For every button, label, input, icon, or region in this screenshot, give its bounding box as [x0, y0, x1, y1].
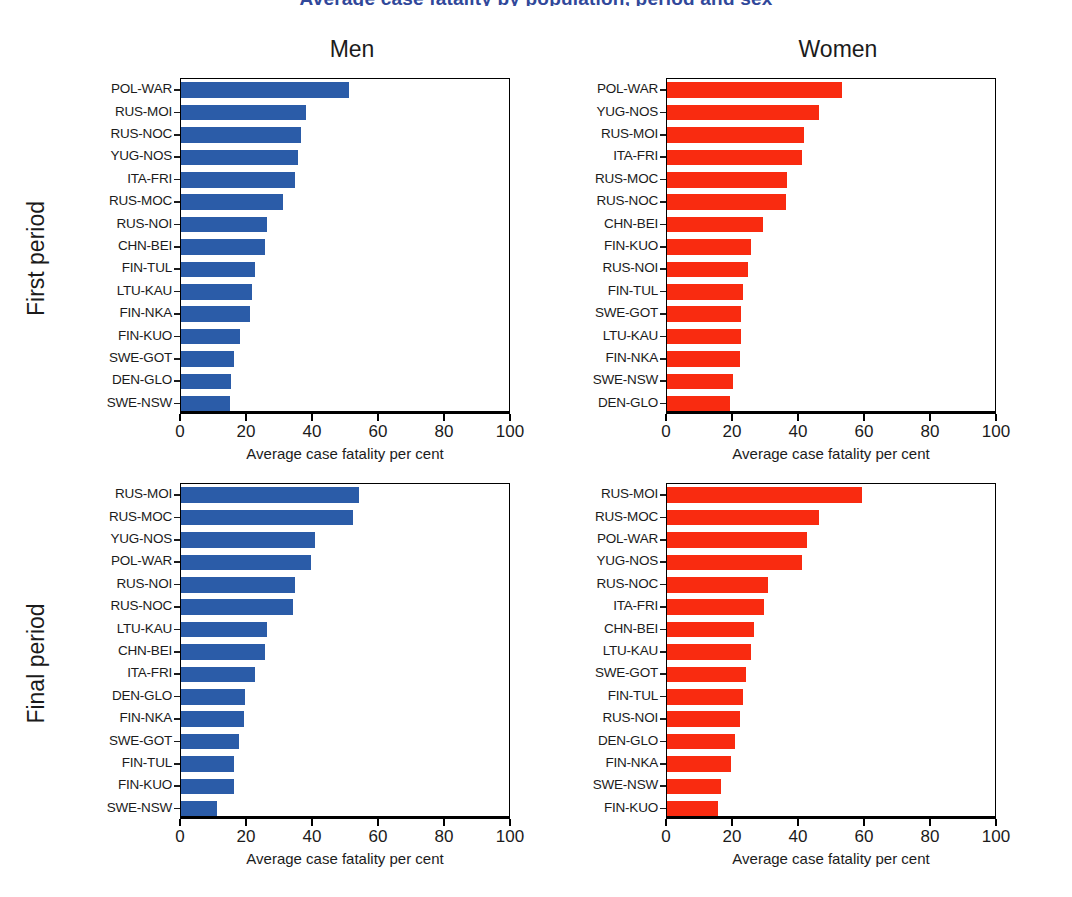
x-axis-title: Average case fatality per cent	[666, 850, 996, 867]
category-tick-label: CHN-BEI	[118, 644, 172, 658]
x-tick-label: 60	[369, 422, 388, 442]
x-tick-mark	[797, 819, 799, 826]
bar	[667, 801, 718, 817]
category-tick-label: YUG-NOS	[110, 149, 172, 163]
x-tick-mark	[929, 819, 931, 826]
plot-area: POL-WARRUS-MOIRUS-NOCYUG-NOSITA-FRIRUS-M…	[92, 78, 512, 414]
bar	[181, 577, 295, 593]
category-tick-label: DEN-GLO	[112, 373, 172, 387]
category-tick-label: RUS-NOC	[596, 577, 658, 591]
bar	[667, 711, 740, 727]
bar	[667, 532, 807, 548]
bar	[181, 351, 234, 367]
panel-final-period-men: RUS-MOIRUS-MOCYUG-NOSPOL-WARRUS-NOIRUS-N…	[92, 483, 512, 819]
bar	[181, 105, 306, 121]
category-tick-label: FIN-TUL	[608, 689, 658, 703]
category-tick-label: FIN-TUL	[122, 261, 172, 275]
bar	[181, 239, 265, 255]
x-axis-title: Average case fatality per cent	[666, 445, 996, 462]
figure-title: Average case fatality by population, per…	[0, 0, 1072, 6]
category-tick-label: YUG-NOS	[110, 532, 172, 546]
category-tick-label: POL-WAR	[597, 82, 658, 96]
category-tick-label: SWE-GOT	[595, 306, 658, 320]
x-axis-title: Average case fatality per cent	[180, 445, 510, 462]
bar	[667, 487, 862, 503]
bar	[181, 622, 267, 638]
plot-frame	[180, 78, 510, 414]
bar	[181, 374, 231, 390]
category-tick-label: SWE-NSW	[593, 778, 658, 792]
x-tick-mark	[377, 414, 379, 421]
bar	[181, 779, 234, 795]
category-tick-label: FIN-NKA	[605, 351, 658, 365]
x-tick-label: 0	[661, 827, 670, 847]
bar	[181, 510, 353, 526]
bar	[667, 689, 743, 705]
x-tick-label: 40	[303, 827, 322, 847]
x-tick-label: 0	[661, 422, 670, 442]
bar	[181, 532, 315, 548]
category-tick-label: ITA-FRI	[613, 599, 658, 613]
plot-area: RUS-MOIRUS-MOCPOL-WARYUG-NOSRUS-NOCITA-F…	[578, 483, 998, 819]
x-axis: Average case fatality per cent 020406080…	[666, 414, 996, 466]
bar	[181, 306, 250, 322]
plot-frame	[666, 483, 996, 819]
category-tick-label: SWE-NSW	[107, 801, 172, 815]
x-tick-mark	[797, 414, 799, 421]
category-axis: POL-WARYUG-NOSRUS-MOIITA-FRIRUS-MOCRUS-N…	[578, 78, 666, 414]
x-tick-mark	[509, 819, 511, 826]
x-tick-mark	[179, 819, 181, 826]
x-tick-mark	[929, 414, 931, 421]
bar	[667, 396, 730, 412]
plot-area: POL-WARYUG-NOSRUS-MOIITA-FRIRUS-MOCRUS-N…	[578, 78, 998, 414]
bar	[667, 555, 802, 571]
x-tick-mark	[377, 819, 379, 826]
bar	[181, 644, 265, 660]
bar	[667, 217, 763, 233]
category-tick-label: DEN-GLO	[112, 689, 172, 703]
x-tick-label: 60	[369, 827, 388, 847]
bar	[181, 284, 252, 300]
category-tick-label: RUS-NOC	[596, 194, 658, 208]
bar	[667, 262, 748, 278]
category-tick-label: RUS-MOC	[595, 510, 658, 524]
category-tick-label: SWE-GOT	[595, 666, 658, 680]
x-tick-mark	[665, 414, 667, 421]
row-header-first-period: First period	[23, 179, 50, 339]
x-tick-label: 80	[921, 422, 940, 442]
bar	[667, 734, 735, 750]
category-tick-label: RUS-NOI	[602, 261, 658, 275]
category-tick-label: CHN-BEI	[118, 239, 172, 253]
x-tick-mark	[443, 819, 445, 826]
row-header-final-period: Final period	[23, 584, 50, 744]
x-tick-mark	[995, 819, 997, 826]
x-tick-mark	[179, 414, 181, 421]
bar	[181, 711, 244, 727]
x-tick-label: 0	[175, 827, 184, 847]
x-axis: Average case fatality per cent 020406080…	[666, 819, 996, 871]
panel-first-period-men: POL-WARRUS-MOIRUS-NOCYUG-NOSITA-FRIRUS-M…	[92, 78, 512, 414]
bar	[181, 667, 255, 683]
category-tick-label: FIN-KUO	[604, 239, 658, 253]
category-tick-label: RUS-MOI	[115, 487, 172, 501]
category-tick-label: ITA-FRI	[613, 149, 658, 163]
category-tick-label: FIN-NKA	[119, 711, 172, 725]
plot-frame	[666, 78, 996, 414]
bar	[181, 689, 245, 705]
category-axis: RUS-MOIRUS-MOCYUG-NOSPOL-WARRUS-NOIRUS-N…	[92, 483, 180, 819]
category-tick-label: FIN-NKA	[119, 306, 172, 320]
category-tick-label: RUS-MOI	[601, 127, 658, 141]
category-tick-label: RUS-MOI	[115, 105, 172, 119]
category-tick-label: FIN-TUL	[608, 284, 658, 298]
category-tick-label: LTU-KAU	[117, 284, 172, 298]
bar	[667, 284, 743, 300]
category-tick-label: SWE-GOT	[109, 734, 172, 748]
bar	[667, 756, 731, 772]
category-tick-label: RUS-NOC	[110, 599, 172, 613]
bar	[667, 644, 751, 660]
category-tick-label: SWE-GOT	[109, 351, 172, 365]
x-tick-mark	[863, 414, 865, 421]
x-tick-mark	[995, 414, 997, 421]
bar	[667, 329, 741, 345]
bar	[667, 667, 746, 683]
